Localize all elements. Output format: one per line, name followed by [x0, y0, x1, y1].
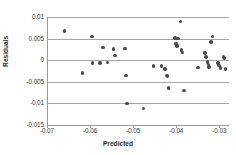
data-point [63, 29, 67, 33]
gridline [48, 17, 229, 18]
y-tick-label: 0.01 [6, 14, 44, 20]
data-point [163, 67, 167, 71]
data-point [112, 47, 116, 51]
data-point [113, 54, 117, 58]
data-point [123, 47, 127, 51]
data-point [166, 75, 170, 79]
y-tick-label: -0.005 [6, 79, 44, 85]
data-point [124, 74, 128, 78]
data-point [207, 65, 211, 69]
data-point [204, 55, 208, 59]
data-point [167, 86, 171, 90]
data-point [152, 64, 156, 68]
data-point [90, 35, 94, 39]
data-point [209, 40, 213, 44]
x-tick-label: -0.04 [156, 128, 196, 134]
data-point [175, 44, 179, 48]
x-tick-label: -0.03 [199, 128, 236, 134]
data-point [182, 89, 186, 93]
data-point [91, 61, 95, 65]
y-tick-label: -0.01 [6, 100, 44, 106]
data-point [224, 67, 228, 71]
x-tick-label: -0.06 [70, 128, 110, 134]
data-point [142, 107, 146, 111]
gridline [48, 39, 229, 40]
x-tick-label: -0.07 [27, 128, 67, 134]
plot-area [47, 17, 229, 126]
y-tick-label: 0 [6, 57, 44, 63]
residual-scatter-chart: 0.010.0050-0.005-0.01-0.015 -0.07-0.06-0… [0, 0, 236, 155]
gridline [48, 103, 229, 104]
x-axis-title: Predicted [0, 141, 236, 148]
data-point [106, 61, 110, 65]
data-point [181, 51, 185, 55]
data-point [81, 71, 85, 75]
data-point [196, 66, 200, 70]
data-point [101, 46, 105, 50]
data-point [219, 66, 223, 70]
y-tick-label: 0.005 [6, 36, 44, 42]
y-axis-title: Residuals [3, 21, 10, 81]
data-point [176, 37, 180, 41]
data-point [125, 102, 129, 106]
data-point [98, 61, 102, 65]
x-tick-label: -0.05 [113, 128, 153, 134]
gridline [48, 60, 229, 61]
data-point [179, 20, 183, 24]
gridline [48, 82, 229, 83]
